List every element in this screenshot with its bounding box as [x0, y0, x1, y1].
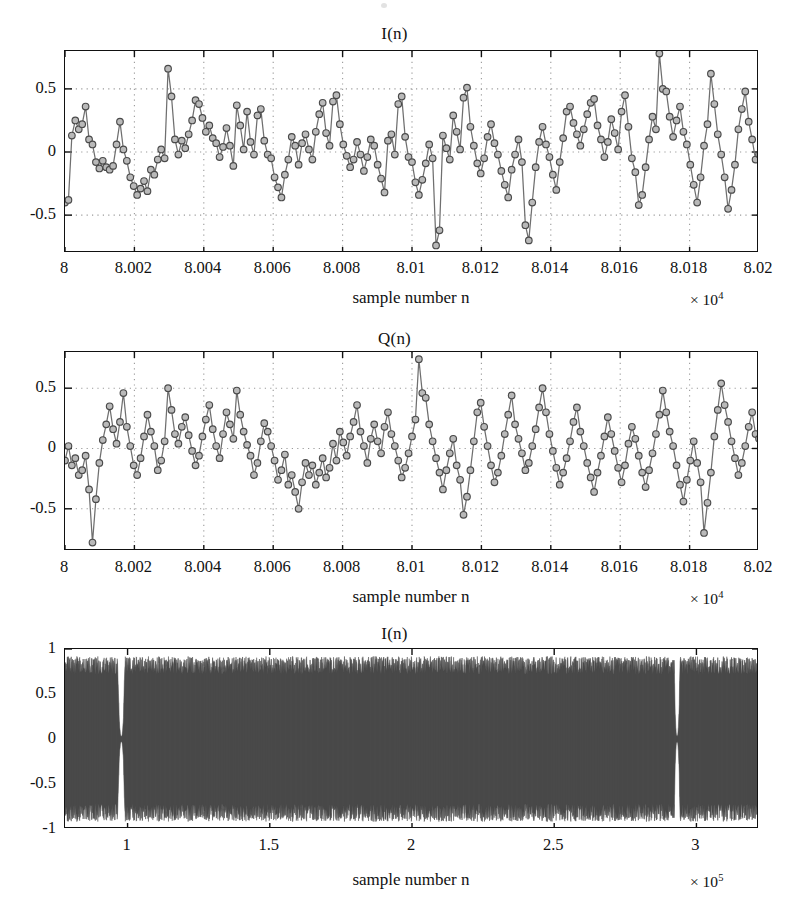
x-tick-label: 8.016: [601, 557, 638, 577]
exponent-power: 4: [718, 290, 723, 301]
x-tick-label: 8.004: [184, 258, 221, 278]
x-tick-label: 8.012: [462, 557, 499, 577]
x-axis-title: sample number n: [64, 870, 758, 890]
y-tick-label: 0: [48, 728, 56, 748]
exponent-mantissa: × 10: [690, 873, 718, 890]
x-tick-label: 8.018: [670, 557, 707, 577]
y-tick-label: 0: [48, 437, 56, 457]
x-tick-label: 8.002: [115, 258, 152, 278]
plot-area: [64, 351, 758, 550]
x-axis-exponent: × 104: [690, 290, 723, 309]
y-tick-label: -0.5: [30, 773, 56, 793]
x-tick-label: 8.004: [184, 557, 221, 577]
exponent-mantissa: × 10: [690, 590, 718, 607]
scan-artifact: [381, 3, 387, 8]
x-tick-label: 2: [407, 835, 415, 855]
x-axis-title: sample number n: [64, 587, 758, 607]
x-tick-label: 2.5: [543, 835, 564, 855]
x-axis-exponent: × 105: [690, 872, 723, 891]
panel-in-zoomed: I(n) 0.50-0.5 88.0028.0048.0068.0088.018…: [0, 0, 789, 320]
panel-title: I(n): [0, 624, 789, 644]
y-tick-label: 0: [48, 141, 56, 161]
y-tick-label: -1: [42, 818, 56, 838]
panel-title: I(n): [0, 24, 789, 44]
x-tick-label: 8: [60, 557, 68, 577]
x-axis-exponent: × 104: [690, 589, 723, 608]
y-axis-labels: 0.50-0.5: [0, 320, 56, 321]
x-tick-label: 8.02: [744, 557, 773, 577]
plot-svg: [65, 649, 758, 828]
x-tick-label: 8.01: [397, 557, 426, 577]
x-tick-label: 8.014: [531, 258, 568, 278]
x-tick-label: 8.008: [323, 557, 360, 577]
x-tick-label: 8.006: [254, 557, 291, 577]
x-tick-label: 8.018: [670, 258, 707, 278]
plot-area: [64, 648, 758, 828]
y-axis-labels: 10.50-0.5-1: [0, 620, 56, 621]
y-tick-label: -0.5: [30, 498, 56, 518]
x-tick-label: 1: [122, 835, 130, 855]
y-tick-label: 0.5: [35, 78, 56, 98]
x-tick-label: 8: [60, 258, 68, 278]
figure-canvas: I(n) 0.50-0.5 88.0028.0048.0068.0088.018…: [0, 0, 789, 917]
waveform-striations: [65, 656, 758, 821]
panel-in-full: I(n) 10.50-0.5-1 11.522.53 sample number…: [0, 620, 789, 917]
exponent-power: 4: [718, 589, 723, 600]
y-axis-labels: 0.50-0.5: [0, 0, 56, 1]
x-tick-label: 8.002: [115, 557, 152, 577]
x-tick-label: 1.5: [258, 835, 279, 855]
x-tick-label: 8.01: [397, 258, 426, 278]
exponent-mantissa: × 10: [690, 291, 718, 308]
x-tick-label: 8.014: [531, 557, 568, 577]
y-tick-label: 0.5: [35, 683, 56, 703]
plot-area: [64, 50, 758, 252]
panel-title: Q(n): [0, 329, 789, 349]
x-tick-label: 3: [691, 835, 699, 855]
x-tick-label: 8.016: [601, 258, 638, 278]
panel-qn-zoomed: Q(n) 0.50-0.5 88.0028.0048.0068.0088.018…: [0, 320, 789, 620]
x-tick-label: 8.02: [744, 258, 773, 278]
exponent-power: 5: [718, 872, 723, 883]
y-tick-label: 0.5: [35, 377, 56, 397]
x-axis-title: sample number n: [64, 288, 758, 308]
plot-svg: [65, 352, 758, 550]
y-tick-label: 1: [48, 638, 56, 658]
plot-svg: [65, 51, 758, 252]
x-tick-label: 8.012: [462, 258, 499, 278]
x-tick-label: 8.008: [323, 258, 360, 278]
data-line: [65, 54, 758, 246]
y-tick-label: -0.5: [30, 204, 56, 224]
x-tick-label: 8.006: [254, 258, 291, 278]
